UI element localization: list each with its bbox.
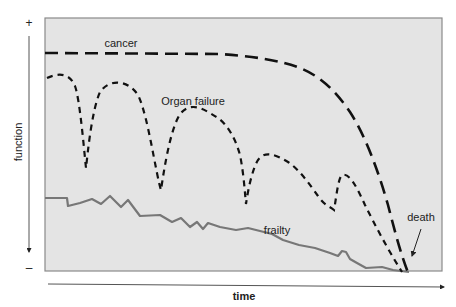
organ-failure-label: Organ failure [161,95,225,107]
plot-area [45,18,442,271]
x-axis-label: time [233,290,256,302]
x-axis-arrow [48,284,444,287]
y-minus-marker: – [26,261,33,275]
trajectory-diagram: + – function time cancer Organ failure f… [0,0,456,307]
y-plus-marker: + [25,16,32,30]
death-label: death [407,211,435,223]
y-axis-label: function [12,123,24,162]
cancer-label: cancer [104,37,137,49]
frailty-label: frailty [264,224,291,236]
